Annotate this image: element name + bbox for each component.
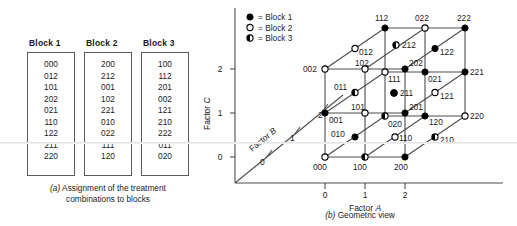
point-021-label: 111 — [388, 74, 401, 84]
point-212-marker — [432, 45, 438, 51]
tick-label-b-0: 0 — [260, 157, 265, 167]
point-011-label: 011 — [334, 82, 348, 92]
run-value: 101 — [44, 82, 58, 94]
run-value: 212 — [101, 71, 115, 83]
run-value: 210 — [158, 117, 172, 129]
tick-label-a-1: 1 — [363, 190, 368, 200]
point-220-marker — [462, 113, 468, 119]
run-value: 000 — [44, 59, 58, 71]
axis-label-group: 0 1 2 0 1 2 0 1 2 Factor C Factor A Fact… — [202, 64, 408, 213]
point-121-label: 021 — [428, 74, 442, 84]
point-020-label: 020 — [388, 119, 402, 129]
legend: = Block 1 = Block 2 = Block 3 — [247, 12, 293, 43]
caption-text: Geometric view — [335, 210, 394, 220]
point-211-marker — [432, 89, 438, 95]
point-111-label: 211 — [400, 88, 414, 98]
point-010-marker — [352, 134, 358, 140]
half-circle-icon — [247, 35, 253, 41]
point-001-marker — [322, 110, 328, 116]
legend-item-block-2: = Block 2 — [258, 23, 293, 33]
point-221-label: 221 — [470, 67, 484, 77]
axis-b-title: Factor B — [247, 125, 279, 153]
tick-label-a-0: 0 — [323, 190, 328, 200]
run-value: 020 — [158, 151, 172, 163]
axis-c-title-text: Factor — [202, 104, 212, 130]
block-1-runs: 000 012 101 202 021 110 122 211 220 — [27, 59, 75, 163]
point-200-marker — [402, 154, 408, 160]
run-value: 220 — [44, 151, 58, 163]
point-202-label: 202 — [409, 58, 423, 68]
point-022-label: 112 — [375, 13, 389, 23]
point-212-label: 122 — [440, 47, 454, 57]
tick-label-c-0: 0 — [218, 152, 223, 162]
run-value: 002 — [158, 94, 172, 106]
point-100-label: 100 — [353, 162, 367, 172]
run-value: 010 — [101, 117, 115, 129]
point-120-label: 120 — [429, 117, 443, 127]
point-002-label: 002 — [303, 64, 317, 74]
point-000-label: 000 — [313, 162, 327, 172]
axis-c-title: Factor C — [202, 97, 212, 130]
point-111-marker — [391, 90, 398, 97]
run-value: 121 — [158, 105, 172, 117]
svg-text:Factor C: Factor C — [202, 97, 212, 130]
panel-a-block-assignment: Block 1 Block 2 Block 3 000 012 101 202 … — [0, 0, 215, 226]
point-120-marker — [422, 113, 428, 119]
filled-circle-icon — [247, 14, 253, 20]
point-202-marker — [402, 66, 408, 72]
point-012-label: 012 — [359, 47, 373, 57]
run-value: 222 — [158, 128, 172, 140]
point-112-marker — [393, 42, 399, 48]
point-122-label: 022 — [415, 13, 429, 23]
panel-a-caption: (a) Assignment of the treatment combinat… — [8, 183, 208, 205]
run-value: 001 — [101, 82, 115, 94]
run-value: 120 — [101, 151, 115, 163]
point-011-marker — [352, 89, 358, 95]
legend-item-block-3: = Block 3 — [258, 33, 293, 43]
tick-label-c-2: 2 — [218, 64, 223, 74]
point-100-marker — [362, 154, 368, 160]
scanline-artifact-2 — [0, 143, 517, 144]
point-012-marker — [352, 45, 358, 51]
point-222-label: 222 — [457, 13, 471, 23]
cube-diagram-svg: 000 100 200 010 110 210 020 120 220 001 … — [200, 0, 517, 226]
point-220-label: 220 — [470, 111, 484, 121]
panel-b-geometric-view: 000 100 200 010 110 210 020 120 220 001 … — [200, 0, 517, 226]
point-211-label: 121 — [440, 91, 454, 101]
caption-text-line2: combinations to blocks — [66, 194, 150, 204]
run-value: 012 — [44, 71, 58, 83]
point-000-marker — [322, 154, 328, 160]
run-value: 021 — [44, 105, 58, 117]
run-value: 112 — [158, 71, 171, 83]
block-1-title: Block 1 — [29, 38, 61, 48]
point-122-marker — [422, 25, 428, 31]
point-200-label: 200 — [394, 162, 408, 172]
caption-prefix: (a) — [50, 183, 60, 193]
run-value: 022 — [101, 128, 115, 140]
tick-label-c-1: 1 — [218, 108, 223, 118]
run-value: 122 — [44, 128, 58, 140]
block-2-runs: 200 212 001 102 221 010 022 111 120 — [84, 59, 132, 163]
point-102-label: 102 — [355, 58, 369, 68]
point-210-marker — [432, 134, 438, 140]
run-value: 102 — [101, 94, 115, 106]
open-circle-icon — [247, 24, 253, 30]
svg-text:Factor B: Factor B — [247, 125, 279, 153]
run-value: 202 — [44, 94, 58, 106]
point-001-label: 001 — [329, 115, 343, 125]
run-value: 110 — [44, 117, 57, 129]
tick-label-b-2: 2 — [318, 110, 323, 120]
caption-prefix: (b) — [325, 210, 335, 220]
point-201-marker — [402, 110, 408, 116]
point-222-marker — [462, 25, 468, 31]
tick-label-a-2: 2 — [403, 190, 408, 200]
run-value: 221 — [101, 105, 115, 117]
point-110-marker — [392, 134, 398, 140]
block-3-title: Block 3 — [143, 38, 175, 48]
run-value: 201 — [158, 82, 172, 94]
axis-c-title-italic: C — [202, 97, 212, 104]
point-112-label: 212 — [402, 40, 416, 50]
point-022-marker — [382, 25, 388, 31]
block-3-runs: 100 112 201 002 121 210 222 011 020 — [141, 59, 189, 163]
run-value: 100 — [158, 59, 172, 71]
